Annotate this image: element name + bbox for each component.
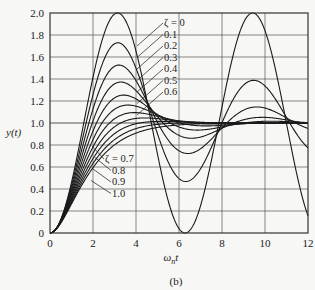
series-label: 0.1: [164, 29, 177, 40]
series-label: 0.2: [164, 40, 177, 51]
y-tick-label: 0: [39, 227, 45, 239]
figure-caption: (b): [170, 275, 183, 288]
series-label: 0.4: [164, 63, 178, 74]
series-label: 0.6: [164, 86, 177, 97]
x-axis-ticks: 024681012: [47, 237, 313, 249]
series-label: 0.9: [112, 176, 125, 187]
series-label: ζ = 0: [164, 17, 185, 29]
series-label: 0.5: [164, 75, 177, 86]
x-axis-label: ωnt: [164, 251, 180, 266]
x-tick-label: 4: [133, 237, 139, 249]
y-tick-label: 0.4: [30, 183, 44, 195]
y-tick-label: 2.0: [30, 7, 44, 19]
step-response-chart: 00.20.40.60.81.01.21.41.61.82.0 02468101…: [0, 0, 315, 290]
series-label: 0.8: [112, 165, 125, 176]
y-tick-label: 1.8: [30, 29, 44, 41]
x-tick-label: 6: [176, 237, 182, 249]
y-tick-label: 1.6: [30, 51, 44, 63]
x-tick-label: 10: [260, 237, 272, 249]
y-tick-label: 0.8: [30, 139, 44, 151]
x-tick-label: 12: [303, 237, 314, 249]
series-label: 1.0: [112, 188, 125, 199]
y-tick-label: 1.4: [30, 73, 44, 85]
series-label: 0.3: [164, 52, 177, 63]
y-tick-label: 0.6: [30, 161, 44, 173]
y-axis-ticks: 00.20.40.60.81.01.21.41.61.82.0: [30, 7, 44, 239]
y-tick-label: 1.2: [30, 95, 44, 107]
x-tick-label: 2: [90, 237, 96, 249]
y-axis-label: y(t): [5, 126, 22, 139]
series-label: ζ = 0.7: [105, 153, 134, 165]
x-tick-label: 8: [219, 237, 225, 249]
x-tick-label: 0: [47, 237, 53, 249]
label-leader-lines: [91, 23, 163, 194]
y-tick-label: 0.2: [30, 205, 44, 217]
y-tick-label: 1.0: [30, 117, 44, 129]
